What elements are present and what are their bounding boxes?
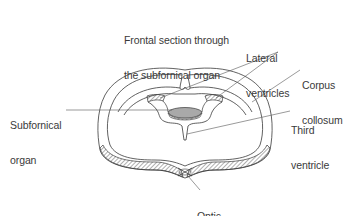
hatched-base-left — [100, 145, 183, 177]
diagram-title: Frontal section through the subfornical … — [124, 12, 229, 93]
label-third-ventricle: Third ventricle — [291, 102, 329, 183]
title-line-1: Frontal section through — [124, 35, 229, 47]
lateral-ventricle-right — [205, 95, 223, 103]
hatched-base-right — [187, 145, 270, 177]
label-lateral-ventricles: Lateral ventricles — [246, 30, 289, 111]
label-subfornical-organ: Subfornical organ — [10, 97, 61, 178]
subfornical-organ-shape — [168, 108, 202, 119]
label-optic-chiasm: Optic chiasm — [197, 188, 230, 216]
title-line-2: the subfornical organ — [124, 70, 229, 82]
lateral-ventricle-left — [147, 95, 165, 103]
